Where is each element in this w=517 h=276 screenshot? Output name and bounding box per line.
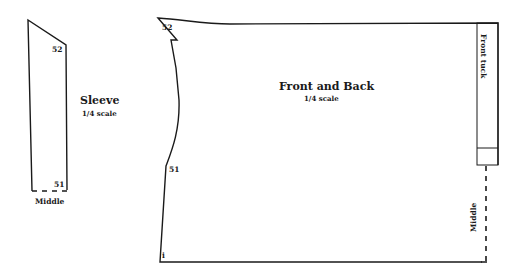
front-back-middle-label: Middle — [469, 203, 478, 232]
front-back-scale: 1/4 scale — [304, 94, 339, 103]
sleeve-scale: 1/4 scale — [82, 109, 117, 118]
front-back-marker-51: 51 — [169, 165, 179, 174]
front-back-middle-fold-line — [481, 166, 486, 262]
front-back-piece: 52 51 i Front tuck Middle — [158, 18, 498, 262]
sleeve-piece: 52 51 Middle — [28, 20, 67, 206]
front-back-title: Front and Back — [279, 80, 374, 93]
sleeve-marker-52: 52 — [52, 45, 62, 54]
front-back-marker-52: 52 — [162, 23, 172, 32]
sleeve-middle-label: Middle — [35, 197, 64, 206]
sleeve-marker-51: 51 — [54, 180, 64, 189]
pattern-diagram: 52 51 Middle Sleeve 1/4 scale 52 51 i Fr… — [0, 0, 517, 276]
front-tuck-label: Front tuck — [479, 34, 488, 79]
front-back-corner-marker: i — [162, 251, 165, 260]
sleeve-title: Sleeve — [80, 94, 120, 107]
front-back-outline — [158, 18, 498, 262]
